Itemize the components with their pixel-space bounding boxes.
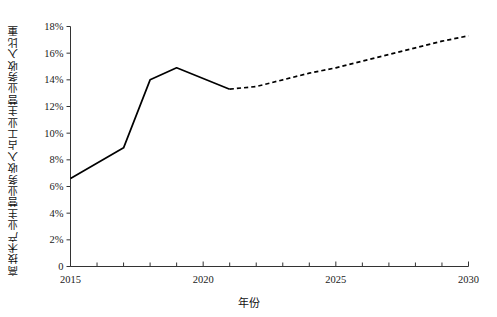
x-tick-label: 2025 bbox=[325, 274, 346, 285]
y-tick-label: 2% bbox=[50, 234, 64, 245]
y-tick-label: 16% bbox=[44, 48, 64, 59]
y-tick-label: 10% bbox=[44, 128, 64, 139]
y-tick-label: 12% bbox=[44, 101, 64, 112]
series-line-forecast bbox=[230, 36, 469, 89]
chart-figure: 高技术产业主营业务收入占工业主营业务收入比重 02%4%6%8%10%12%14… bbox=[0, 0, 497, 317]
line-chart-plot: 02%4%6%8%10%12%14%16%18% 201520202025203… bbox=[0, 0, 497, 317]
y-tick-label: 0 bbox=[58, 261, 63, 272]
y-tick-label: 14% bbox=[44, 74, 64, 85]
series-line-historical bbox=[71, 68, 230, 179]
y-tick-label: 8% bbox=[50, 154, 64, 165]
data-series-group bbox=[71, 36, 469, 179]
y-axis-ticks: 02%4%6%8%10%12%14%16%18% bbox=[44, 21, 70, 272]
x-tick-label: 2015 bbox=[60, 274, 81, 285]
x-axis-ticks: 2015202020252030 bbox=[60, 262, 479, 285]
x-axis-label: 年份 bbox=[0, 294, 497, 310]
y-tick-label: 6% bbox=[50, 181, 64, 192]
x-tick-label: 2030 bbox=[458, 274, 479, 285]
y-tick-label: 18% bbox=[44, 21, 64, 32]
x-tick-label: 2020 bbox=[193, 274, 214, 285]
y-tick-label: 4% bbox=[50, 208, 64, 219]
